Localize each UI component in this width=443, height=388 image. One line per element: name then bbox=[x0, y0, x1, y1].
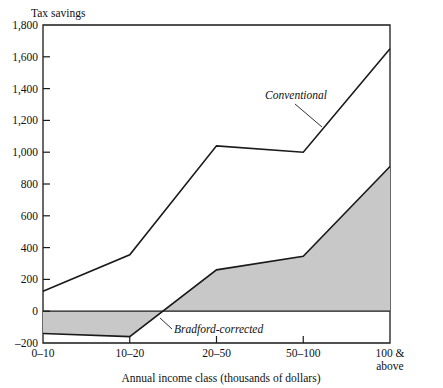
y-tick-label: 1,400 bbox=[12, 83, 38, 96]
x-tick-label: 0–10 bbox=[32, 347, 55, 359]
y-tick-label: 0 bbox=[32, 305, 38, 317]
y-tick-label: 1,200 bbox=[12, 114, 38, 127]
bradford-leader-line bbox=[160, 318, 172, 329]
y-axis-title: Tax savings bbox=[31, 7, 86, 20]
conventional-annotation: Conventional bbox=[265, 89, 327, 127]
conventional-leader-line bbox=[295, 104, 322, 127]
x-tick-label: 20–50 bbox=[202, 347, 231, 359]
y-tick-label: 1,600 bbox=[12, 51, 38, 64]
x-tick-label: 10–20 bbox=[115, 347, 144, 359]
y-tick-label: 1,000 bbox=[12, 146, 38, 159]
bradford-corrected-label: Bradford-corrected bbox=[174, 323, 263, 336]
bradford-annotation: Bradford-corrected bbox=[160, 318, 263, 336]
y-tick-label: 400 bbox=[21, 242, 39, 254]
conventional-label: Conventional bbox=[265, 89, 327, 101]
chart-container: Tax savings –20002004006008001,0001,2001… bbox=[0, 0, 443, 388]
tax-savings-area-chart: Tax savings –20002004006008001,0001,2001… bbox=[0, 0, 443, 388]
x-axis-ticks: 0–1010–2020–5050–100100 &above bbox=[32, 336, 405, 372]
x-tick-label: 50–100 bbox=[286, 347, 321, 359]
x-tick-label: 100 & bbox=[375, 347, 404, 359]
y-tick-label: 600 bbox=[21, 210, 39, 222]
y-tick-label: 200 bbox=[21, 273, 39, 285]
x-axis-title: Annual income class (thousands of dollar… bbox=[122, 372, 321, 385]
x-tick-label-second-line: above bbox=[376, 360, 403, 372]
y-axis-ticks: –20002004006008001,0001,2001,4001,6001,8… bbox=[12, 19, 50, 349]
y-tick-label: 1,800 bbox=[12, 19, 38, 32]
y-tick-label: 800 bbox=[21, 178, 39, 190]
